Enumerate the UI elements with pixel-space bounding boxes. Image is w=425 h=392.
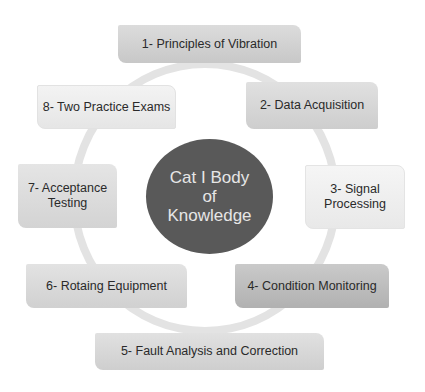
topic-label: 4- Condition Monitoring	[247, 279, 376, 294]
topic-box-signal-processing: 3- Signal Processing	[305, 165, 405, 229]
topic-label: 6- Rotaing Equipment	[46, 279, 167, 294]
topic-box-fault-analysis: 5- Fault Analysis and Correction	[95, 333, 324, 370]
center-topic-label: Cat I Body of Knowledge	[167, 168, 251, 225]
topic-label: 7- Acceptance Testing	[28, 181, 107, 211]
topic-box-rotating-equipment: 6- Rotaing Equipment	[26, 264, 187, 308]
topic-box-practice-exams: 8- Two Practice Exams	[37, 85, 176, 129]
topic-label: 1- Principles of Vibration	[142, 37, 277, 52]
topic-label: 3- Signal Processing	[324, 182, 386, 212]
topic-box-acceptance-testing: 7- Acceptance Testing	[18, 164, 117, 228]
topic-label: 8- Two Practice Exams	[43, 100, 171, 115]
center-topic-circle: Cat I Body of Knowledge	[146, 139, 273, 254]
topic-box-condition-monitoring: 4- Condition Monitoring	[235, 264, 389, 308]
topic-box-data-acquisition: 2- Data Acquisition	[246, 82, 378, 129]
topic-label: 2- Data Acquisition	[260, 98, 364, 113]
topic-box-principles-of-vibration: 1- Principles of Vibration	[118, 25, 301, 63]
topic-label: 5- Fault Analysis and Correction	[121, 344, 298, 359]
